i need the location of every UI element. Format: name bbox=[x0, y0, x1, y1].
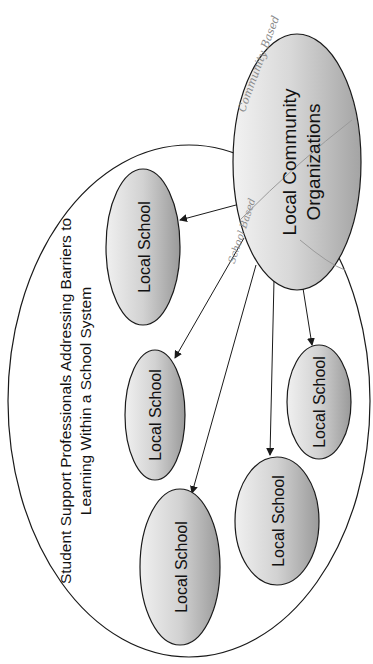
diagram-canvas: Student Support Professionals Addressing… bbox=[0, 0, 373, 664]
container-label-line1: Student Support Professionals Addressing… bbox=[57, 218, 74, 584]
hub-label-line1: Local Community bbox=[279, 88, 300, 235]
edge-hub-school-3 bbox=[192, 265, 256, 493]
school-node-4: Local School bbox=[235, 457, 319, 585]
school-node-3: Local School bbox=[140, 489, 220, 645]
school-node-2: Local School bbox=[125, 350, 185, 480]
edge-hub-school-1 bbox=[180, 205, 236, 220]
edge-hub-school-5 bbox=[302, 282, 312, 345]
school-node-1: Local School bbox=[106, 169, 180, 325]
hub-label-line2: Organizations bbox=[303, 103, 324, 220]
school-label-1: Local School bbox=[136, 201, 153, 293]
school-label-4: Local School bbox=[270, 475, 287, 567]
school-label-2: Local School bbox=[147, 369, 164, 461]
container-label: Student Support Professionals Addressing… bbox=[57, 218, 94, 584]
school-node-5: Local School bbox=[287, 345, 351, 459]
hub-node-local-community-organizations: Local Community Organizations Community … bbox=[226, 14, 361, 290]
school-label-3: Local School bbox=[173, 521, 190, 613]
school-label-5: Local School bbox=[311, 356, 328, 448]
edge-hub-school-4 bbox=[270, 280, 274, 455]
container-label-line2: Learning Within a School System bbox=[77, 287, 94, 515]
